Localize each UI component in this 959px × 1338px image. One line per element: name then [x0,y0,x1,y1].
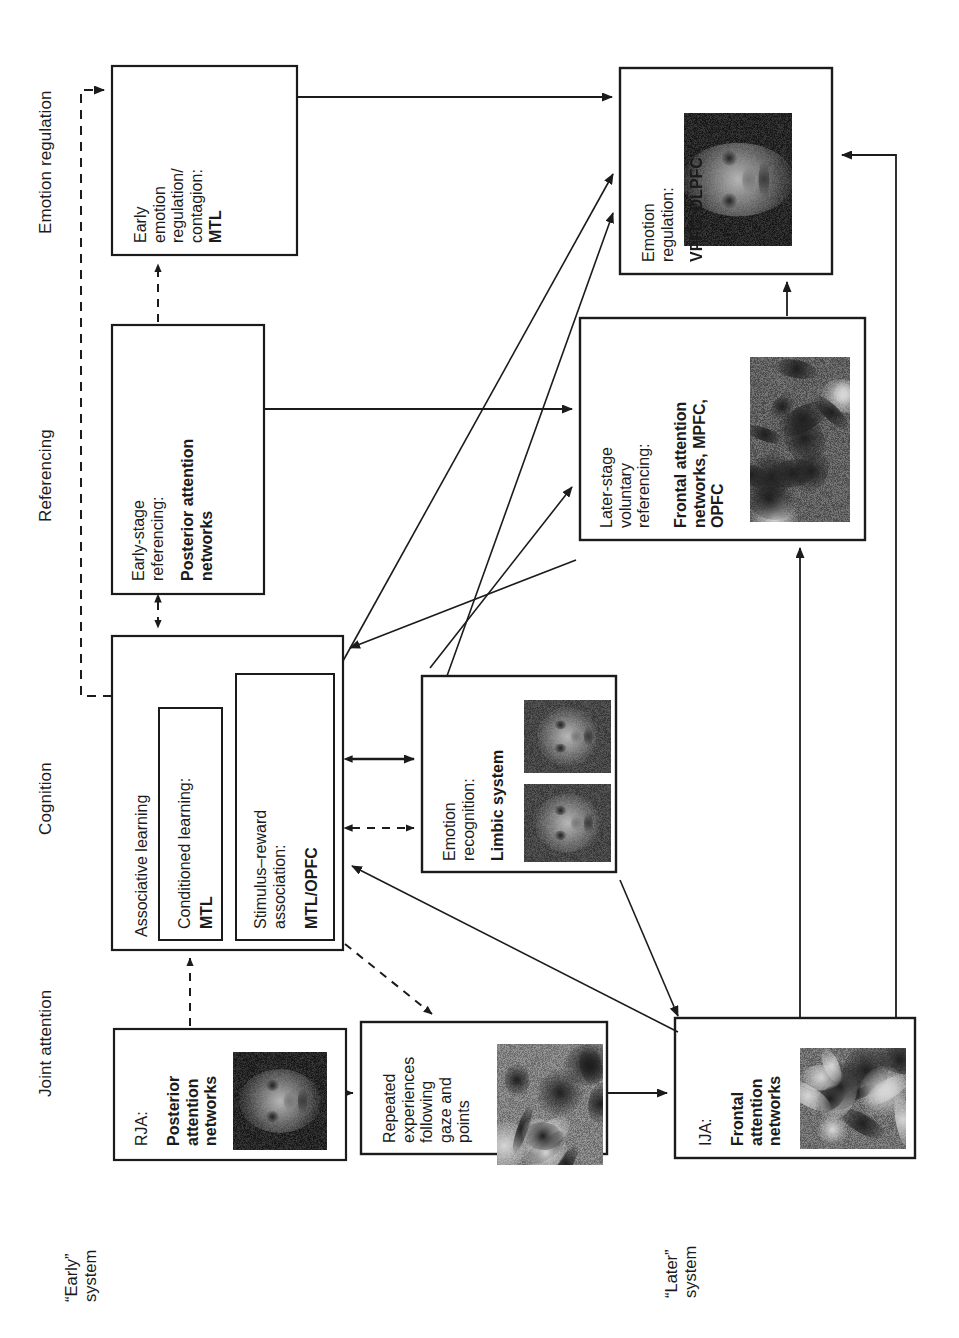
label-stimulus-reward-plain: Stimulus–reward association: [252,810,289,929]
arrow-ija-to-emotion-regulation [842,155,896,1018]
photo-emotion-recognition-faces-2 [524,784,611,862]
label-early-referencing-plain: Early-stage referencing: [130,497,167,582]
label-rja-plain: RJA: [133,1111,152,1146]
label-early-emotion-plain-text: Early emotion regulation/ contagion: [132,168,205,243]
label-rja-bold-text: Posterior attention networks [165,1076,219,1146]
label-emotion-recognition-plain: Emotion recognition: [441,778,478,861]
arrow-emotion-recognition-to-later-referencing [430,487,572,668]
column-header-emotion-regulation: Emotion regulation [36,90,56,234]
label-emotion-regulation-plain: Emotion regulation: [640,187,677,262]
label-repeated-experiences: Repeated experiences following gaze and … [381,1057,474,1143]
label-conditioned-learning-bold: MTL [198,896,217,929]
label-later-referencing-plain-text: Later-stage voluntary referencing: [598,444,652,529]
label-later-referencing-bold: Frontal attention networks, MPFC, OPFC [672,399,728,528]
label-emotion-recognition-plain-text: Emotion recognition: [441,778,477,861]
label-conditioned-learning-plain-text: Conditioned learning: [176,778,193,929]
label-rja-plain-text: RJA: [133,1111,150,1146]
column-header-referencing: Referencing [36,429,56,522]
label-emotion-regulation-plain-text: Emotion regulation: [640,187,676,262]
label-ija-bold: Frontal attention networks [729,1076,785,1146]
dashed-associative-learning-to-early-emotion [81,90,112,696]
label-stimulus-reward-plain-text: Stimulus–reward association: [252,810,288,929]
label-rja-bold: Posterior attention networks [165,1076,221,1146]
label-ija-plain: IJA: [697,1118,716,1146]
label-later-referencing-bold-text: Frontal attention networks, MPFC, OPFC [672,399,726,528]
label-early-referencing-bold-text: Posterior attention networks [179,439,215,581]
label-early-emotion-bold-text: MTL [207,210,224,243]
label-emotion-regulation-bold: VPFC, DLPFC [688,157,707,262]
label-ija-bold-text: Frontal attention networks [729,1076,783,1146]
label-repeated-experiences-text: Repeated experiences following gaze and … [381,1057,472,1143]
label-later-referencing-plain: Later-stage voluntary referencing: [598,444,654,529]
system-label-early-text: “Early” system [62,1250,99,1302]
label-early-referencing-bold: Posterior attention networks [179,439,216,581]
label-ija-plain-text: IJA: [697,1118,714,1146]
photo-ija-outdoor [800,1048,906,1149]
photo-emotion-recognition-faces-1 [524,700,611,773]
photo-rja-infant-face [233,1052,327,1150]
figure-canvas: Emotion regulation Referencing Cognition… [0,0,959,1338]
label-early-emotion-bold: MTL [207,210,226,243]
arrow-later-referencing-to-associative-learning [350,560,576,648]
label-associative-learning-text: Associative learning [133,795,150,937]
label-conditioned-learning-plain: Conditioned learning: [176,778,195,929]
photo-later-referencing-play [750,357,850,522]
label-early-emotion-plain: Early emotion regulation/ contagion: [132,168,206,243]
label-emotion-regulation-bold-text: VPFC, DLPFC [688,157,705,262]
column-header-joint-attention: Joint attention [36,990,56,1097]
label-emotion-recognition-bold-text: Limbic system [489,750,506,861]
system-label-later: “Later” system [662,1246,700,1298]
system-label-early: “Early” system [62,1250,100,1302]
column-header-cognition: Cognition [36,762,56,835]
dashed-stimulus-reward-to-repeated-experiences [345,944,432,1014]
system-label-later-text: “Later” system [662,1246,699,1298]
label-associative-learning: Associative learning [133,795,152,937]
label-conditioned-learning-bold-text: MTL [198,896,215,929]
arrow-emotion-recognition-to-ija [620,880,678,1016]
label-stimulus-reward-bold-text: MTL/OPFC [303,847,320,929]
arrow-ija-to-associative-learning [352,866,678,1032]
label-emotion-recognition-bold: Limbic system [489,750,508,861]
label-stimulus-reward-bold: MTL/OPFC [303,847,322,929]
label-early-referencing-plain-text: Early-stage referencing: [130,497,166,582]
photo-repeated-experiences-pointing [497,1044,603,1165]
